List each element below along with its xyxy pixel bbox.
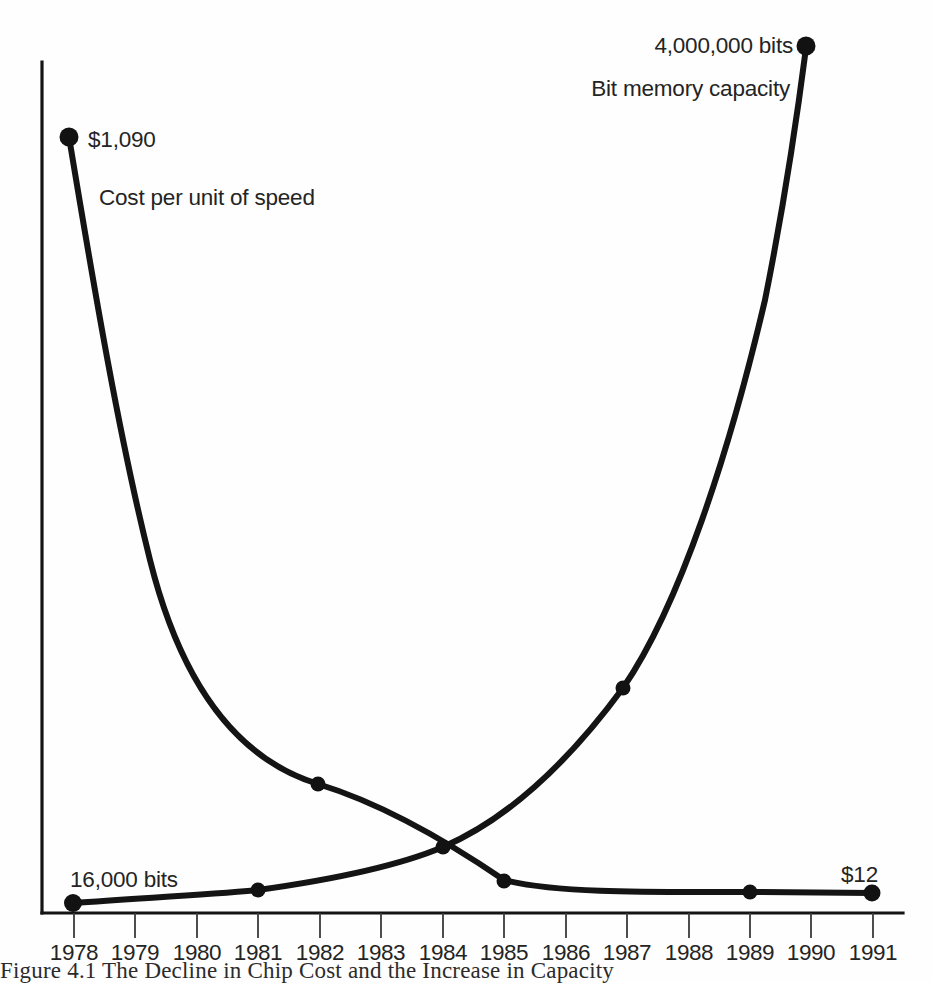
cost-data-point-1982 [311,777,326,792]
cost-curve-path [69,137,872,893]
series-bit-memory-capacity [64,37,816,913]
annotation-cost-start-value: $1,090 [88,127,156,152]
figure-caption: Figure 4.1 The Decline in Chip Cost and … [0,958,932,984]
annotation-cost-series-label: Cost per unit of speed [99,185,315,210]
series-cost-per-unit-of-speed [60,128,881,902]
chart-annotations: $1,090 Cost per unit of speed 16,000 bit… [70,33,878,892]
memory-data-point-1978 [64,894,82,912]
memory-data-point-1987 [616,681,631,696]
cost-data-point-1991 [864,885,881,902]
cost-data-point-1985 [497,874,512,889]
annotation-memory-end-value: 4,000,000 bits [654,33,793,58]
memory-data-point-1984 [436,840,451,855]
cost-data-point-1978 [60,128,79,147]
annotation-cost-end-value: $12 [841,862,878,887]
memory-data-point-1981 [251,883,266,898]
cost-data-point-1989 [743,885,758,900]
annotation-memory-start-value: 16,000 bits [70,867,178,892]
memory-curve-path [73,48,806,903]
memory-data-point-1990 [797,37,816,56]
annotation-memory-series-label: Bit memory capacity [591,76,791,101]
x-axis-ticks [74,913,873,938]
